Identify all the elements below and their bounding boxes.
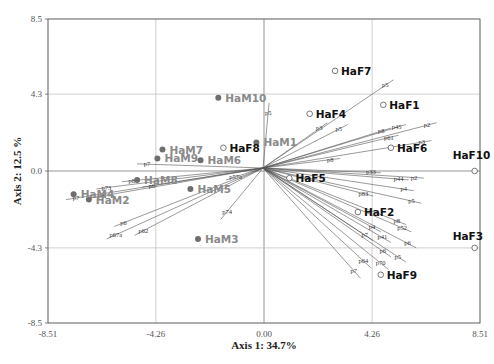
y-tick-label: -4.3 [28, 243, 43, 253]
haf-point-marker [307, 111, 313, 117]
vector-label: p41 [377, 233, 387, 240]
vector-label: p4 [401, 185, 408, 192]
y-axis-title: Axis 2: 12.5 % [11, 137, 23, 205]
biplot-chart: p7p7p73p8p8p6p6p62p67ap57ap74p5p3p5p5p8p… [0, 0, 494, 364]
haf-point-marker [380, 102, 386, 108]
x-tick-label: -4.26 [146, 329, 165, 339]
axis-ticks: -8.51-4.260.004.268.518.54.30.0-4.3-8.5 [28, 14, 488, 339]
ham-point-marker [154, 155, 160, 161]
vector-label: p8 [327, 156, 334, 163]
y-tick-label: -8.5 [28, 318, 43, 328]
haf-point-label: HaF2 [364, 206, 394, 218]
vector-label: p7 [351, 267, 358, 274]
haf-point-label: HaF6 [397, 142, 427, 154]
haf-point-marker [355, 209, 361, 215]
vector-line [263, 168, 411, 232]
vector-label: p6 [379, 247, 386, 254]
vector-label: p64 [358, 257, 369, 264]
ham-point-marker [134, 177, 140, 183]
haf-point-label: HaF8 [229, 142, 259, 154]
ham-point-label: HaM1 [263, 136, 297, 148]
haf-point-label: HaF3 [453, 230, 483, 242]
vector-label: p2 [411, 174, 418, 181]
vector-label: p5 [395, 253, 402, 260]
vector-label: p57a [229, 173, 242, 180]
ham-point-marker [187, 186, 193, 192]
variable-vectors: p7p7p73p8p8p6p6p62p67ap57ap74p5p3p5p5p8p… [66, 80, 437, 278]
vector-label: p3 [316, 124, 323, 131]
haf-point-marker [332, 68, 338, 74]
haf-point-marker [287, 175, 293, 181]
vector-label: p44 [394, 175, 405, 182]
vector-label: p8 [129, 177, 136, 184]
vector-label: p67a [109, 231, 122, 238]
vector-label: p6 [120, 219, 127, 226]
vector-label: p5 [336, 125, 343, 132]
haf-point-label: HaF5 [295, 172, 325, 184]
haf-point-marker [378, 272, 384, 278]
vector-label: p62 [139, 227, 149, 234]
ham-point-label: HaM10 [225, 92, 266, 104]
ham-point-marker [195, 236, 201, 242]
haf-point-label: HaF9 [387, 269, 417, 281]
vector-label: p6 [404, 239, 411, 246]
y-tick-label: 0.0 [31, 166, 43, 176]
vector-line [263, 168, 360, 278]
haf-point-label: HaF10 [453, 149, 491, 161]
ham-point-label: HaM5 [197, 183, 231, 195]
haf-point-marker [388, 145, 394, 151]
vector-label: p74 [222, 208, 233, 215]
y-tick-label: 4.3 [31, 89, 43, 99]
vector-line [263, 168, 409, 180]
x-tick-label: 4.26 [364, 329, 380, 339]
vector-label: p45 [392, 123, 402, 130]
haf-point-label: HaF1 [389, 99, 419, 111]
x-tick-label: 0.00 [256, 329, 272, 339]
vector-label: p52 [397, 224, 407, 231]
haf-point-label: HaF7 [341, 65, 371, 77]
haf-point-marker [472, 168, 478, 174]
sample-points: HaM1HaM2HaM3HaM4HaM5HaM6HaM7HaM8HaM9HaM1… [71, 65, 491, 281]
x-tick-label: -8.51 [39, 329, 58, 339]
ham-point-marker [215, 95, 221, 101]
ham-point-label: HaM6 [208, 154, 242, 166]
x-axis-title: Axis 1: 34.7% [231, 339, 297, 351]
vector-label: p5 [265, 109, 272, 116]
haf-point-marker [472, 245, 478, 251]
x-tick-label: 8.51 [472, 329, 488, 339]
vector-label: p5 [408, 197, 415, 204]
vector-label: p7 [144, 160, 151, 167]
ham-point-label: HaM9 [164, 152, 198, 164]
ham-point-label: HaM3 [205, 233, 239, 245]
haf-point-marker [221, 145, 227, 151]
haf-point-label: HaF4 [316, 108, 346, 120]
y-tick-label: 8.5 [31, 14, 43, 24]
vector-label: p70 [376, 259, 386, 266]
ham-point-marker [198, 157, 204, 163]
vector-label: p2 [424, 121, 431, 128]
vector-label: p5 [382, 81, 389, 88]
vector-label: p61 [384, 134, 394, 141]
ham-point-label: HaM4 [81, 188, 115, 200]
ham-point-marker [71, 191, 77, 197]
ham-point-label: HaM8 [144, 174, 178, 186]
